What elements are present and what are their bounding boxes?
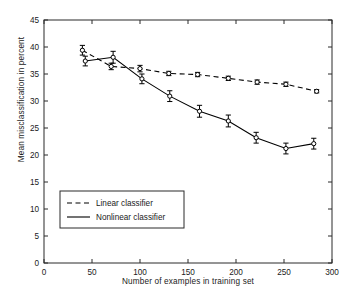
y-tick-label: 10 [30, 205, 40, 214]
data-point-marker [254, 136, 258, 140]
y-tick-label: 40 [30, 43, 40, 52]
y-tick-label: 30 [30, 97, 40, 106]
y-axis-label: Mean misclassification in percent [17, 5, 26, 195]
y-tick-label: 0 [34, 259, 39, 268]
data-point-marker [226, 119, 230, 123]
data-point-marker [226, 76, 230, 80]
x-tick-label: 250 [277, 268, 291, 277]
x-tick-label: 50 [87, 268, 97, 277]
y-tick-label: 25 [30, 124, 40, 133]
x-tick-label: 200 [229, 268, 243, 277]
data-point-marker [80, 48, 84, 52]
y-tick-label: 20 [30, 151, 40, 160]
data-point-marker [109, 64, 113, 68]
figure: 050100150200250300 051015202530354045 Li… [0, 0, 364, 307]
y-tick-label: 35 [30, 70, 40, 79]
data-point-marker [111, 55, 115, 59]
data-point-marker [284, 82, 288, 86]
data-point-marker [284, 146, 288, 150]
data-point-marker [197, 109, 201, 113]
data-point-marker [83, 59, 87, 63]
data-point-marker [138, 67, 142, 71]
data-point-marker [312, 142, 316, 146]
y-tick-label: 5 [34, 232, 39, 241]
y-tick-label: 45 [30, 16, 40, 25]
data-point-marker [315, 89, 319, 93]
legend-label: Nonlinear classifier [96, 213, 165, 222]
x-axis-label: Number of examples in training set [44, 277, 332, 286]
x-tick-label: 100 [133, 268, 147, 277]
x-tick-label: 300 [325, 268, 339, 277]
data-point-marker [140, 77, 144, 81]
data-point-marker [196, 72, 200, 76]
chart-canvas: 050100150200250300 051015202530354045 Li… [0, 0, 364, 307]
data-point-marker [167, 71, 171, 75]
data-point-marker [255, 80, 259, 84]
x-tick-label: 0 [42, 268, 47, 277]
y-tick-label: 15 [30, 178, 40, 187]
x-tick-label: 150 [181, 268, 195, 277]
data-point-marker [168, 94, 172, 98]
legend-label: Linear classifier [96, 199, 153, 208]
chart-legend: Linear classifierNonlinear classifier [60, 191, 184, 228]
